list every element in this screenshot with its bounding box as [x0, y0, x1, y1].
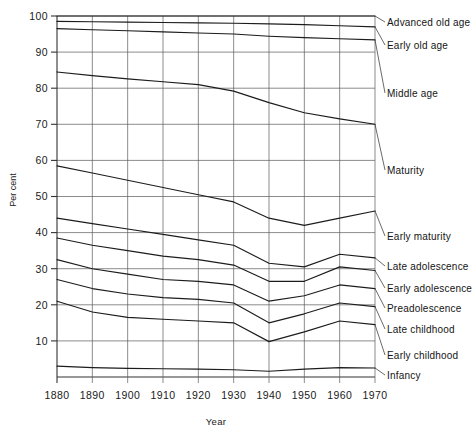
series-line	[57, 366, 375, 371]
series-leader-line	[375, 211, 385, 236]
x-tick-label: 1910	[151, 389, 176, 401]
y-tick-label: 70	[36, 118, 48, 130]
series-leader-line	[375, 258, 385, 266]
y-tick-label: 100	[29, 10, 48, 22]
series-leader-line	[375, 307, 385, 329]
series-label: Maturity	[387, 165, 424, 176]
x-tick-label: 1970	[363, 389, 388, 401]
survivorship-line-chart: 100908070605040302010 188018901900191019…	[0, 0, 475, 433]
y-axis-tick-labels: 100908070605040302010	[29, 10, 57, 347]
series-line	[57, 280, 375, 323]
x-tick-label: 1930	[221, 389, 246, 401]
x-tick-label: 1950	[292, 389, 317, 401]
series-label: Advanced old age	[387, 17, 471, 28]
y-tick-label: 60	[36, 154, 48, 166]
series-leader-line	[375, 368, 385, 375]
series-line	[57, 218, 375, 267]
series-label: Early childhood	[387, 350, 458, 361]
x-tick-label: 1920	[186, 389, 211, 401]
series-leader-line	[375, 124, 385, 170]
series-leader-line	[375, 40, 385, 93]
y-tick-label: 30	[36, 263, 48, 275]
series-label: Infancy	[387, 370, 421, 381]
y-tick-label: 50	[36, 190, 48, 202]
series-line	[57, 29, 375, 40]
grid-layer	[57, 16, 375, 383]
series-line	[57, 21, 375, 26]
y-tick-label: 10	[36, 335, 48, 347]
series-line	[57, 260, 375, 302]
series-leader-line	[375, 16, 385, 22]
curve-layer	[57, 16, 375, 371]
y-tick-label: 20	[36, 299, 48, 311]
x-axis-title: Year	[206, 416, 226, 427]
series-label: Late adolescence	[387, 261, 469, 272]
series-label: Early adolescence	[387, 283, 472, 294]
leader-line-layer	[375, 16, 385, 375]
y-tick-label: 90	[36, 46, 48, 58]
series-leader-line	[375, 27, 385, 45]
series-label: Early old age	[387, 40, 448, 51]
series-leader-line	[375, 289, 385, 308]
series-line	[57, 238, 375, 281]
x-tick-label: 1900	[115, 389, 140, 401]
x-axis-tick-labels: 1880189019001910192019301940195019601970	[45, 389, 388, 401]
y-tick-label: 80	[36, 82, 48, 94]
chart-canvas: 100908070605040302010 188018901900191019…	[0, 0, 475, 433]
series-label: Middle age	[387, 88, 438, 99]
x-tick-label: 1890	[80, 389, 105, 401]
x-tick-label: 1880	[45, 389, 70, 401]
series-label: Early maturity	[387, 231, 451, 242]
series-labels: Advanced old ageEarly old ageMiddle ageM…	[387, 17, 472, 381]
series-line	[57, 72, 375, 124]
y-tick-label: 40	[36, 226, 48, 238]
series-label: Late childhood	[387, 324, 455, 335]
series-leader-line	[375, 325, 385, 355]
y-axis-title: Per cent	[8, 173, 18, 207]
x-tick-label: 1940	[257, 389, 282, 401]
x-tick-label: 1960	[327, 389, 352, 401]
series-leader-line	[375, 271, 385, 288]
series-line	[57, 166, 375, 226]
series-label: Preadolescence	[387, 303, 462, 314]
